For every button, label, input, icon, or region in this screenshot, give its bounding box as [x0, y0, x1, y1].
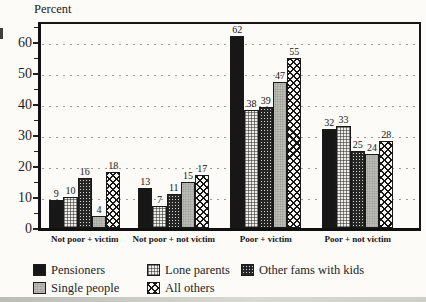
bar-value-label-other-fams-with-kids-not-poor-victim: 16 — [72, 167, 98, 177]
bar-value-label-all-others-poor-not-victim: 28 — [373, 130, 399, 140]
y-axis-label-50: 50 — [4, 67, 32, 81]
bar-value-label-single-people-not-poor-victim: 4 — [86, 205, 112, 215]
y-major-tick-50 — [33, 73, 38, 75]
bar-value-label-pensioners-not-poor-not-victim: 13 — [132, 177, 158, 187]
y-axis-label-0: 0 — [4, 222, 32, 236]
plot-area — [38, 22, 421, 231]
bar-pensioners-poor-victim — [230, 36, 244, 228]
legend-swatch-other-fams-with-kids — [241, 264, 254, 276]
y-axis-label-60: 60 — [4, 36, 32, 50]
scan-artifact-left-edge — [0, 28, 3, 39]
bar-pensioners-poor-not-victim — [322, 129, 336, 228]
bar-value-label-pensioners-poor-victim: 62 — [224, 25, 250, 35]
legend-swatch-all-others — [147, 282, 160, 294]
legend-label-single-people: Single people — [51, 281, 119, 295]
bar-all-others-poor-not-victim — [379, 141, 393, 228]
y-axis-label-10: 10 — [4, 191, 32, 205]
y-major-tick-0 — [33, 228, 38, 230]
bar-other-fams-with-kids-poor-victim — [259, 107, 273, 228]
y-major-tick-30 — [33, 135, 38, 137]
y-minor-tick-5 — [34, 213, 38, 215]
y-major-tick-60 — [33, 42, 38, 44]
y-axis-title: Percent — [34, 2, 71, 17]
y-major-tick-10 — [33, 197, 38, 199]
bar-lone-parents-poor-victim — [244, 110, 258, 228]
y-minor-tick-45 — [34, 89, 38, 91]
bar-value-label-all-others-poor-victim: 55 — [281, 47, 307, 57]
bar-all-others-poor-victim — [287, 58, 301, 228]
bar-lone-parents-not-poor-not-victim — [152, 206, 166, 228]
scan-artifact-bottom-strip — [0, 297, 426, 302]
y-major-tick-20 — [33, 166, 38, 168]
bar-other-fams-with-kids-poor-not-victim — [351, 151, 365, 228]
y-minor-tick-25 — [34, 151, 38, 153]
legend-label-pensioners: Pensioners — [51, 263, 105, 277]
bar-value-label-lone-parents-not-poor-victim: 10 — [57, 186, 83, 196]
legend-swatch-lone-parents — [147, 264, 160, 276]
legend-label-all-others: All others — [165, 281, 215, 295]
legend-swatch-single-people — [33, 282, 46, 294]
bar-single-people-not-poor-victim — [92, 216, 106, 228]
y-axis-label-40: 40 — [4, 98, 32, 112]
bar-single-people-poor-not-victim — [365, 154, 379, 228]
y-minor-tick-65 — [34, 27, 38, 29]
bar-value-label-all-others-not-poor-not-victim: 17 — [189, 164, 215, 174]
y-minor-tick-55 — [34, 58, 38, 60]
bar-value-label-all-others-not-poor-victim: 18 — [100, 161, 126, 171]
bar-all-others-not-poor-not-victim — [195, 175, 209, 228]
x-axis-category-label-poor-not-victim: Poor + not victim — [303, 234, 413, 244]
y-minor-tick-35 — [34, 120, 38, 122]
y-axis-label-20: 20 — [4, 160, 32, 174]
bar-value-label-other-fams-with-kids-not-poor-not-victim: 11 — [161, 183, 187, 193]
bar-value-label-other-fams-with-kids-poor-victim: 39 — [253, 96, 279, 106]
bar-pensioners-not-poor-not-victim — [138, 188, 152, 228]
y-minor-tick-15 — [34, 182, 38, 184]
bar-pensioners-not-poor-victim — [49, 200, 63, 228]
bar-all-others-not-poor-victim — [106, 172, 120, 228]
bar-value-label-single-people-poor-not-victim: 24 — [359, 143, 385, 153]
bar-value-label-single-people-poor-victim: 47 — [267, 71, 293, 81]
legend-swatch-pensioners — [33, 264, 46, 276]
y-axis-label-30: 30 — [4, 129, 32, 143]
legend-label-lone-parents: Lone parents — [165, 263, 230, 277]
scanned-bar-chart-figure: Percent 010203040506091016418Not poor + … — [0, 0, 426, 302]
bar-value-label-lone-parents-poor-not-victim: 33 — [330, 115, 356, 125]
bar-lone-parents-not-poor-victim — [63, 197, 77, 228]
bar-value-label-lone-parents-not-poor-not-victim: 7 — [146, 195, 172, 205]
legend-label-other-fams-with-kids: Other fams with kids — [259, 263, 364, 277]
y-major-tick-40 — [33, 104, 38, 106]
